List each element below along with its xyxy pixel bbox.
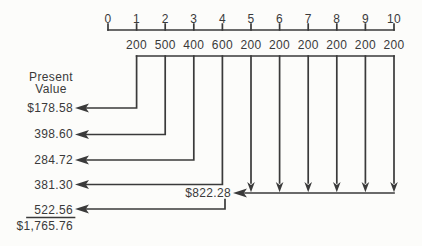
cash-flow-4: 600 bbox=[212, 38, 233, 52]
axis-title-line-2: Value bbox=[35, 82, 67, 96]
cash-flow-9: 200 bbox=[355, 38, 376, 52]
pv-label-1: $178.58 bbox=[27, 101, 73, 115]
annuity-drop-arrows bbox=[247, 56, 398, 192]
cash-flow-2: 500 bbox=[155, 38, 176, 52]
period-label-8: 8 bbox=[333, 12, 340, 26]
total-pv-label: $1,765.76 bbox=[16, 219, 73, 233]
period-labels: 0 1 2 3 4 5 6 7 8 9 10 bbox=[104, 12, 401, 26]
pv-label-4: 381.30 bbox=[34, 178, 73, 192]
period-label-3: 3 bbox=[190, 12, 197, 26]
pv-arrow-period-4 bbox=[75, 56, 222, 189]
period-label-6: 6 bbox=[276, 12, 283, 26]
period-label-2: 2 bbox=[162, 12, 169, 26]
period-label-0: 0 bbox=[104, 12, 111, 26]
period-label-9: 9 bbox=[362, 12, 369, 26]
cash-flow-1: 200 bbox=[126, 38, 147, 52]
annuity-pv-label: $822.28 bbox=[185, 186, 231, 200]
pv-arrow-period-1 bbox=[75, 56, 137, 112]
pv-arrow-line-4 bbox=[86, 56, 222, 185]
period-label-10: 10 bbox=[387, 12, 401, 26]
cash-flow-8: 200 bbox=[326, 38, 347, 52]
pv-arrow-line-2 bbox=[86, 56, 165, 135]
pv-label-5: 522.56 bbox=[34, 203, 73, 217]
cash-flow-10: 200 bbox=[383, 38, 404, 52]
pv-label-2: 398.60 bbox=[34, 127, 73, 141]
cash-flow-3: 400 bbox=[183, 38, 204, 52]
annuity-drop-lines bbox=[251, 56, 394, 183]
annuity-discount-line bbox=[86, 200, 225, 210]
down-arrowhead-icons bbox=[247, 182, 398, 192]
period-label-5: 5 bbox=[247, 12, 254, 26]
cash-flow-7: 200 bbox=[298, 38, 319, 52]
cash-flow-5: 200 bbox=[240, 38, 261, 52]
pv-arrow-line-1 bbox=[86, 56, 137, 108]
pv-arrow-period-2 bbox=[75, 56, 165, 139]
period-label-1: 1 bbox=[133, 12, 140, 26]
pv-timeline-diagram: 0 1 2 3 4 5 6 7 8 9 10 200 500 400 600 2… bbox=[0, 0, 422, 246]
annuity-pv-arrow bbox=[233, 189, 394, 198]
cash-flow-values: 200 500 400 600 200 200 200 200 200 200 bbox=[126, 38, 404, 52]
period-label-4: 4 bbox=[219, 12, 226, 26]
diagram-canvas: 0 1 2 3 4 5 6 7 8 9 10 200 500 400 600 2… bbox=[0, 0, 422, 246]
cash-flow-6: 200 bbox=[269, 38, 290, 52]
pv-arrow-period-3 bbox=[75, 56, 194, 164]
pv-label-3: 284.72 bbox=[34, 153, 73, 167]
annuity-discount-arrow bbox=[75, 200, 225, 214]
present-value-column: Present Value $178.58 398.60 284.72 381.… bbox=[16, 70, 74, 233]
period-label-7: 7 bbox=[305, 12, 312, 26]
